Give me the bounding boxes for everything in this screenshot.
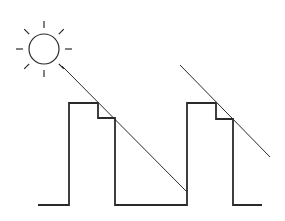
sun-ray (59, 64, 64, 69)
sun-ray (24, 29, 29, 34)
sun-disc (29, 34, 59, 64)
sun-ray (59, 29, 64, 34)
sunlight-diagram (0, 0, 285, 221)
sun-ray (24, 64, 29, 69)
sunlight-line (62, 66, 187, 192)
sun-icon (16, 21, 72, 77)
sunlight-line (180, 65, 270, 157)
light-rays (62, 65, 270, 192)
